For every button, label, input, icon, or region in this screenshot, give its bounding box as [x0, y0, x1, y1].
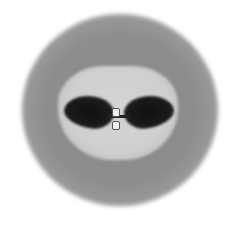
center-connector-bottom [112, 121, 120, 130]
center-connector-top [112, 108, 120, 117]
